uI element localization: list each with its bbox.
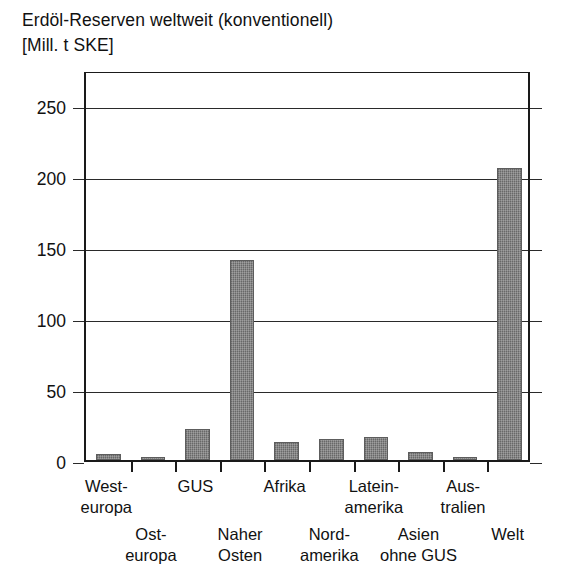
y-axis-tick-label: 100 — [37, 311, 66, 332]
y-axis-tick-label: 250 — [37, 98, 66, 119]
x-axis-label-line1: Welt — [491, 525, 524, 543]
y-axis-tick-right — [530, 179, 542, 180]
y-axis-tick-left — [73, 392, 84, 393]
x-axis-tick — [487, 460, 489, 472]
x-axis-label-line1: Aus- — [446, 477, 480, 495]
y-axis-tick-label: 0 — [56, 453, 66, 474]
x-axis-label-line1: GUS — [178, 477, 214, 495]
x-axis-tick — [131, 460, 133, 472]
chart-subtitle: [Mill. t SKE] — [22, 33, 333, 58]
bar — [364, 437, 389, 460]
x-axis-labels: West-europaOst-europaGUSNaherOstenAfrika… — [84, 476, 530, 580]
y-axis-tick-right — [530, 392, 542, 393]
y-axis-tick-right — [530, 250, 542, 251]
x-axis-tick — [175, 460, 177, 472]
x-axis-label-line2: ohne GUS — [359, 545, 479, 566]
x-axis-category-label: Welt — [448, 524, 568, 545]
y-axis-tick-right — [530, 108, 542, 109]
bar — [274, 442, 299, 460]
x-axis-tick — [220, 460, 222, 472]
x-axis-tick — [354, 460, 356, 472]
y-axis-tick-label: 50 — [47, 382, 66, 403]
y-axis-tick-left — [73, 321, 84, 322]
bar — [319, 439, 344, 460]
y-axis-tick-left — [73, 250, 84, 251]
x-axis-tick — [264, 460, 266, 472]
bar-series — [86, 73, 528, 460]
x-axis-label-line1: Naher — [218, 525, 263, 543]
y-axis-tick-label: 150 — [37, 240, 66, 261]
y-axis-tick-right — [530, 463, 542, 464]
x-axis-label-line2: tralien — [403, 497, 523, 518]
bar — [185, 429, 210, 460]
plot-area: 050100150200250 — [84, 72, 530, 462]
y-axis-tick-left — [73, 108, 84, 109]
x-axis-tick — [309, 460, 311, 472]
bar — [96, 454, 121, 460]
chart-title: Erdöl-Reserven weltweit (konventionell) — [22, 8, 333, 33]
y-axis-tick-label: 200 — [37, 169, 66, 190]
x-axis-tick — [443, 460, 445, 472]
x-axis-label-line1: West- — [85, 477, 128, 495]
x-axis-label-line1: Ost- — [135, 525, 166, 543]
x-axis-label-line2: europa — [46, 497, 166, 518]
chart-title-block: Erdöl-Reserven weltweit (konventionell) … — [22, 8, 333, 58]
y-axis-tick-right — [530, 321, 542, 322]
bar — [141, 457, 166, 460]
bar — [453, 457, 478, 460]
bar — [230, 260, 255, 460]
x-axis-label-line1: Asien — [398, 525, 439, 543]
y-axis-tick-left — [73, 463, 84, 464]
bar — [408, 452, 433, 461]
x-axis-category-label: Aus-tralien — [403, 476, 523, 518]
bar — [497, 168, 522, 460]
x-axis-tick — [398, 460, 400, 472]
y-axis-tick-left — [73, 179, 84, 180]
x-axis-label-line1: Afrika — [264, 477, 306, 495]
x-axis-label-line1: Latein- — [349, 477, 399, 495]
x-axis-label-line1: Nord- — [309, 525, 350, 543]
